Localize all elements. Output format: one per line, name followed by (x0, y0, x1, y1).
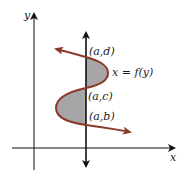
curve-left-tail (56, 49, 86, 57)
point-label-a-d: (a,d) (89, 46, 115, 57)
point-label-a-b: (a,b) (89, 111, 115, 122)
shaded-region-lower (56, 88, 86, 125)
y-axis-label: y (24, 10, 30, 21)
point-label-a-c: (a,c) (88, 91, 113, 102)
curve-label: x = f(y) (112, 67, 153, 78)
diagram: y x (a,d) x = f(y) (a,c) (a,b) (0, 0, 187, 180)
x-axis-label: x (170, 152, 176, 163)
